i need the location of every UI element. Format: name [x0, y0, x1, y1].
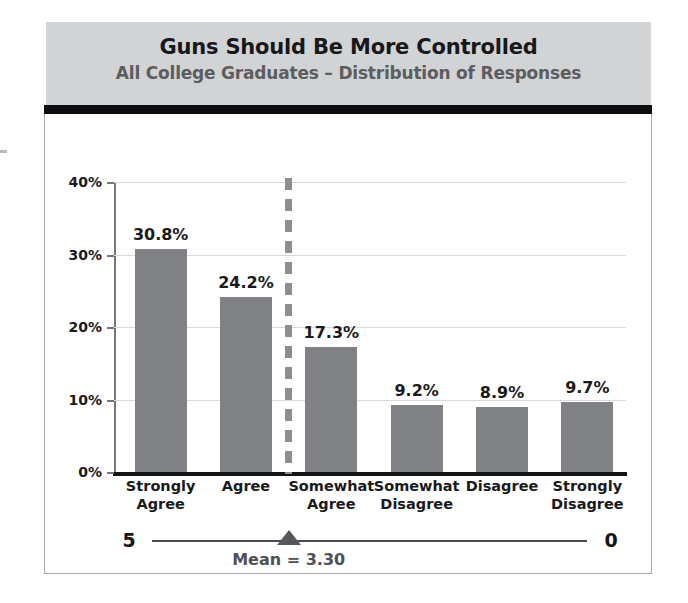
bar — [476, 407, 528, 472]
bar-value-label: 9.7% — [542, 378, 632, 397]
mean-label: Mean = 3.30 — [189, 550, 389, 569]
category-label-line: Disagree — [454, 478, 550, 496]
chart-title: Guns Should Be More Controlled — [46, 22, 651, 59]
category-label-line: Agree — [113, 496, 209, 514]
y-axis-tick — [107, 472, 114, 474]
bar — [305, 347, 357, 472]
scale-left-label: 5 — [114, 529, 144, 551]
category-label-line: Somewhat — [283, 478, 379, 496]
bar — [135, 249, 187, 472]
gridline — [114, 255, 626, 256]
bar-value-label: 8.9% — [457, 383, 547, 402]
category-label: StronglyAgree — [113, 478, 209, 513]
category-label-line: Agree — [283, 496, 379, 514]
bar-value-label: 17.3% — [286, 323, 376, 342]
y-axis-tick-label: 20% — [42, 319, 102, 335]
category-label: Disagree — [454, 478, 550, 496]
y-axis-tick-label: 40% — [42, 174, 102, 190]
y-axis-tick — [107, 255, 114, 257]
page-edge-artifact — [0, 150, 7, 153]
y-axis-tick — [107, 400, 114, 402]
bar — [561, 402, 613, 472]
scale-axis-line — [152, 540, 587, 542]
header-divider-rule — [44, 105, 652, 114]
category-label: StronglyDisagree — [539, 478, 635, 513]
category-label-line: Agree — [198, 478, 294, 496]
category-label: SomewhatAgree — [283, 478, 379, 513]
y-axis-tick — [107, 182, 114, 184]
chart-body: 40%30%20%10%0% 30.8%24.2%17.3%9.2%8.9%9.… — [44, 114, 652, 574]
bar — [220, 297, 272, 472]
category-label-line: Somewhat — [369, 478, 465, 496]
x-axis-category-labels: StronglyAgreeAgreeSomewhatAgreeSomewhatD… — [114, 478, 626, 526]
y-axis-tick-label: 0% — [42, 464, 102, 480]
bar-value-label: 9.2% — [372, 381, 462, 400]
category-label: Agree — [198, 478, 294, 496]
scale-right-label: 0 — [596, 529, 626, 551]
chart-header-band: Guns Should Be More Controlled All Colle… — [46, 22, 651, 105]
chart-subtitle: All College Graduates – Distribution of … — [46, 59, 651, 84]
category-label-line: Disagree — [539, 496, 635, 514]
response-scale-strip: 5 0 Mean = 3.30 — [114, 529, 626, 573]
mean-marker-triangle-icon — [277, 530, 301, 545]
category-label: SomewhatDisagree — [369, 478, 465, 513]
x-axis-line — [113, 472, 627, 476]
category-label-line: Strongly — [113, 478, 209, 496]
y-axis-tick-label: 10% — [42, 392, 102, 408]
gridline — [114, 182, 626, 183]
y-axis-tick-label: 30% — [42, 247, 102, 263]
bar-value-label: 30.8% — [116, 225, 206, 244]
category-label-line: Strongly — [539, 478, 635, 496]
gridline — [114, 400, 626, 401]
bar — [391, 405, 443, 472]
plot-area: 40%30%20%10%0% 30.8%24.2%17.3%9.2%8.9%9.… — [114, 182, 626, 472]
y-axis-tick — [107, 327, 114, 329]
mean-dashed-divider — [285, 178, 292, 474]
bar-value-label: 24.2% — [201, 273, 291, 292]
chart-card: Guns Should Be More Controlled All Colle… — [44, 22, 652, 574]
category-label-line: Disagree — [369, 496, 465, 514]
